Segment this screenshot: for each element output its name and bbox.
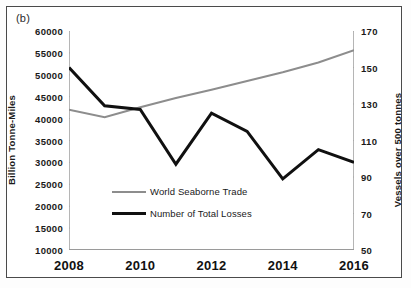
right-axis-tick-label: 50: [361, 245, 372, 256]
right-axis-tick-label: 130: [361, 99, 378, 110]
x-axis-tick-label: 2008: [54, 258, 84, 273]
legend-line-icon-trade: [112, 191, 146, 193]
legend-item-world-seaborne-trade: World Seaborne Trade: [112, 186, 252, 197]
legend-item-number-of-total-losses: Number of Total Losses: [112, 208, 252, 219]
series-line-number-of-total-losses: [69, 68, 354, 179]
left-axis-tick-label: 45000: [35, 91, 63, 102]
left-axis-tick-label: 15000: [35, 223, 63, 234]
left-axis-tick-label: 30000: [35, 157, 63, 168]
chart-legend: World Seaborne Trade Number of Total Los…: [112, 186, 252, 219]
legend-label-losses: Number of Total Losses: [150, 208, 252, 219]
legend-label-trade: World Seaborne Trade: [150, 186, 247, 197]
x-axis-tick-label: 2014: [268, 258, 298, 273]
right-axis-title: Vessels over 500 tonnes: [392, 93, 403, 207]
right-axis-tick-label: 150: [361, 62, 378, 73]
left-axis-tick-label: 35000: [35, 135, 63, 146]
left-axis-tick-label: 55000: [35, 47, 63, 58]
x-axis-tick-label: 2010: [125, 258, 155, 273]
right-axis-tick-label: 110: [361, 135, 377, 146]
panel-label: (b): [16, 12, 30, 24]
left-axis-title: Billion Tonne-Miles: [6, 95, 17, 185]
x-axis-tick-label: 2012: [196, 258, 226, 273]
x-axis-tick-label: 2016: [339, 258, 369, 273]
chart-figure: (b) Billion Tonne-Miles Vessels over 500…: [0, 0, 411, 288]
left-axis-tick-label: 50000: [35, 69, 63, 80]
left-axis-tick-label: 60000: [35, 26, 63, 37]
right-axis-tick-label: 170: [361, 26, 378, 37]
legend-line-icon-losses: [112, 212, 146, 215]
left-axis-tick-label: 20000: [35, 201, 63, 212]
left-axis-tick-label: 10000: [35, 245, 63, 256]
left-axis-tick-label: 25000: [35, 179, 63, 190]
right-axis-tick-label: 90: [361, 172, 372, 183]
left-axis-tick-label: 40000: [35, 113, 63, 124]
right-axis-tick-label: 70: [361, 208, 372, 219]
